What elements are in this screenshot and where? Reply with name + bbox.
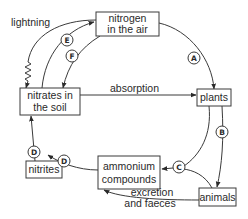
animals-label: animals bbox=[199, 191, 235, 203]
nitrites-label: nitrites bbox=[29, 163, 60, 175]
nitrates-soil-label-line1: nitrates in bbox=[27, 89, 73, 101]
arrow-b bbox=[217, 106, 223, 187]
svg-text:C: C bbox=[176, 163, 182, 172]
node-nitrites: nitrites bbox=[26, 161, 62, 178]
marker-d-nitrites-to-nitrates: D bbox=[28, 146, 40, 158]
arrow-c-from-plants bbox=[184, 106, 209, 166]
svg-text:D: D bbox=[61, 157, 67, 166]
lightning-label: lightning bbox=[11, 16, 50, 28]
svg-text:A: A bbox=[191, 54, 197, 63]
plants-label: plants bbox=[200, 91, 228, 103]
arrow-c bbox=[162, 168, 173, 169]
svg-text:B: B bbox=[219, 128, 225, 137]
marker-f: F bbox=[66, 50, 78, 62]
node-plants: plants bbox=[197, 89, 231, 106]
marker-c: C bbox=[173, 161, 185, 173]
marker-e: E bbox=[61, 34, 73, 46]
excretion-label-line2: and faeces bbox=[124, 197, 175, 209]
svg-text:E: E bbox=[64, 36, 69, 45]
node-animals: animals bbox=[199, 188, 236, 206]
absorption-label: absorption bbox=[110, 82, 159, 94]
marker-b: B bbox=[216, 126, 228, 138]
svg-text:D: D bbox=[31, 148, 37, 157]
node-ammonium-compounds: ammonium compounds bbox=[98, 156, 160, 189]
marker-a: A bbox=[188, 52, 200, 64]
ammonium-label-line1: ammonium bbox=[103, 160, 155, 172]
arrow-c-from-animals bbox=[183, 169, 212, 188]
nitrogen-air-label-line2: in the air bbox=[107, 23, 148, 35]
arrow-a bbox=[159, 23, 214, 89]
node-nitrates-in-the-soil: nitrates in the soil bbox=[20, 88, 80, 115]
svg-text:F: F bbox=[69, 52, 74, 61]
ammonium-label-line2: compounds bbox=[102, 173, 156, 185]
marker-d-ammonium-to-nitrites: D bbox=[58, 155, 70, 167]
nitrates-soil-label-line2: the soil bbox=[33, 101, 66, 113]
lightning-arrow bbox=[25, 20, 96, 88]
nitrogen-cycle-diagram: nitrogen in the air nitrates in the soil… bbox=[0, 0, 248, 219]
node-nitrogen-in-the-air: nitrogen in the air bbox=[96, 12, 159, 36]
